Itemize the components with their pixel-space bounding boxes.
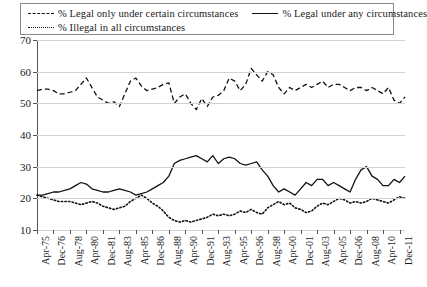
gridline	[37, 72, 405, 73]
y-axis-tick-label: 40	[20, 130, 31, 141]
y-axis-tick-label: 70	[20, 35, 31, 46]
x-axis-tick	[317, 230, 318, 234]
y-axis-tick	[33, 167, 37, 168]
x-axis-tick-label: Dec-86	[156, 236, 166, 265]
x-axis-tick	[350, 230, 351, 234]
x-axis-tick-label: Dec-81	[107, 236, 117, 265]
x-axis-tick-label: Aug-78	[74, 236, 84, 267]
x-axis-tick	[185, 230, 186, 234]
x-axis-tick	[284, 230, 285, 234]
dotted-line-swatch	[28, 23, 54, 33]
y-axis-tick-label: 10	[20, 225, 31, 236]
y-axis-tick	[33, 198, 37, 199]
legend-entry-illegal-all: % Illegal in all circumstances	[28, 20, 185, 35]
x-axis-tick	[103, 230, 104, 234]
x-axis-tick	[70, 230, 71, 234]
x-axis-tick	[218, 230, 219, 234]
y-axis-tick-label: 20	[20, 193, 31, 204]
x-axis-tick-label: Aug-88	[173, 236, 183, 267]
y-axis-tick	[33, 103, 37, 104]
x-axis-tick	[136, 230, 137, 234]
x-axis-tick	[53, 230, 54, 234]
axis-area: Apr-75Dec-76Aug-78Apr-80Dec-81Aug-83Apr-…	[37, 40, 405, 230]
x-axis-tick-label: Aug-98	[272, 236, 282, 267]
x-axis-tick	[152, 230, 153, 234]
x-axis-tick-label: Aug-08	[371, 236, 381, 267]
x-axis-tick	[400, 230, 401, 234]
x-axis-tick-label: Apr-85	[140, 236, 150, 265]
y-axis-tick-label: 60	[20, 66, 31, 77]
legend-row-bottom: % Illegal in all circumstances	[21, 20, 393, 35]
y-axis-tick	[33, 40, 37, 41]
x-axis-tick-label: Dec-11	[404, 236, 414, 265]
x-axis-tick-label: Dec-91	[206, 236, 216, 265]
x-axis-tick	[251, 230, 252, 234]
x-axis-tick-label: Apr-95	[239, 236, 249, 265]
x-axis-tick	[301, 230, 302, 234]
y-axis-tick-label: 50	[20, 98, 31, 109]
gridline	[37, 198, 405, 199]
legend-label-illegal-all: % Illegal in all circumstances	[58, 22, 185, 33]
x-axis-tick-label: Apr-10	[387, 236, 397, 265]
x-axis-tick-label: Apr-90	[189, 236, 199, 265]
x-axis-tick	[119, 230, 120, 234]
x-axis-tick	[169, 230, 170, 234]
x-axis-tick	[235, 230, 236, 234]
x-axis-tick	[383, 230, 384, 234]
x-axis-tick-label: Aug-03	[321, 236, 331, 267]
dashed-line-swatch	[28, 9, 54, 19]
x-axis-tick-label: Apr-80	[90, 236, 100, 265]
x-axis-tick-label: Dec-01	[305, 236, 315, 265]
y-axis-tick	[33, 72, 37, 73]
x-axis-tick-label: Dec-06	[354, 236, 364, 265]
y-axis-labels: 70605040302010	[0, 40, 34, 230]
x-axis-tick-label: Dec-96	[255, 236, 265, 265]
x-axis-tick-label: Apr-75	[41, 236, 51, 265]
x-axis-tick	[334, 230, 335, 234]
solid-line-swatch	[252, 9, 278, 19]
legend-label-legal-any: % Legal under any circumstances	[282, 8, 427, 19]
legend-entry-legal-certain: % Legal only under certain circumstances	[28, 6, 238, 21]
gridline	[37, 135, 405, 136]
x-axis-tick	[268, 230, 269, 234]
y-axis-tick-label: 30	[20, 161, 31, 172]
x-axis-tick	[202, 230, 203, 234]
gridline	[37, 167, 405, 168]
legend-row-top: % Legal only under certain circumstances…	[21, 6, 393, 21]
x-axis-tick	[37, 230, 38, 234]
series-line	[37, 156, 405, 196]
y-axis-tick	[33, 135, 37, 136]
x-axis-tick-label: Dec-76	[57, 236, 67, 265]
x-axis-tick	[367, 230, 368, 234]
gridline	[37, 40, 405, 41]
legend-label-legal-certain: % Legal only under certain circumstances	[58, 8, 238, 19]
x-axis-tick-label: Aug-93	[222, 236, 232, 267]
x-axis-tick-label: Apr-00	[288, 236, 298, 265]
chart-legend: % Legal only under certain circumstances…	[20, 3, 394, 35]
plot-area: 70605040302010 Apr-75Dec-76Aug-78Apr-80D…	[0, 40, 413, 287]
gridline	[37, 103, 405, 104]
x-axis-tick	[86, 230, 87, 234]
x-axis-tick-label: Apr-05	[338, 236, 348, 265]
x-axis-tick-label: Aug-83	[123, 236, 133, 267]
legend-entry-legal-any: % Legal under any circumstances	[252, 6, 427, 21]
